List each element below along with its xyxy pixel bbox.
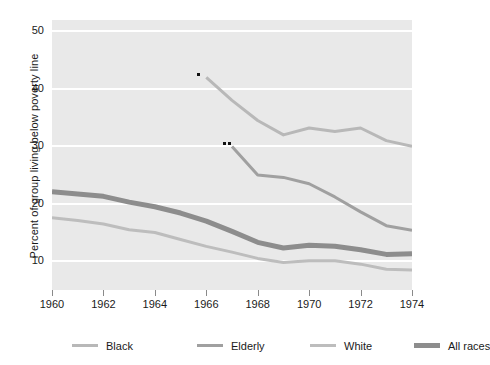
legend-swatch (72, 344, 98, 347)
series-line-elderly (232, 146, 412, 230)
footnote-marker (197, 73, 200, 76)
x-tick-mark (361, 290, 362, 296)
x-tick-mark (155, 290, 156, 296)
legend-item-white[interactable]: White (310, 336, 372, 354)
legend-item-all-races[interactable]: All races (414, 336, 490, 354)
x-tick-label: 1968 (238, 298, 278, 310)
footnote-marker (223, 142, 226, 145)
legend-swatch (414, 343, 440, 348)
legend-label: Elderly (231, 340, 265, 352)
x-tick-mark (103, 290, 104, 296)
footnote-marker (228, 142, 231, 145)
legend-swatch (197, 344, 223, 347)
legend-label: White (344, 340, 372, 352)
legend-item-black[interactable]: Black (72, 336, 133, 354)
x-axis-line (52, 290, 412, 291)
series-line-white (52, 218, 412, 270)
y-axis-title: Percent of group living below poverty li… (28, 26, 40, 286)
legend-label: All races (448, 340, 490, 352)
x-tick-label: 1966 (186, 298, 226, 310)
y-tick-label: 20 (14, 197, 44, 209)
x-tick-mark (206, 290, 207, 296)
x-tick-mark (412, 290, 413, 296)
x-tick-label: 1962 (83, 298, 123, 310)
x-tick-label: 1960 (32, 298, 72, 310)
y-tick-label: 40 (14, 82, 44, 94)
x-tick-label: 1974 (392, 298, 432, 310)
y-tick-label: 10 (14, 254, 44, 266)
plot-area (52, 20, 412, 290)
legend-swatch (310, 344, 336, 347)
legend-item-elderly[interactable]: Elderly (197, 336, 265, 354)
x-tick-label: 1970 (289, 298, 329, 310)
x-tick-mark (258, 290, 259, 296)
series-line-black (206, 77, 412, 146)
series-lines (52, 20, 412, 290)
x-tick-mark (52, 290, 53, 296)
legend-label: Black (106, 340, 133, 352)
x-tick-mark (309, 290, 310, 296)
y-tick-label: 30 (14, 139, 44, 151)
x-tick-label: 1972 (341, 298, 381, 310)
x-tick-label: 1964 (135, 298, 175, 310)
chart-legend: BlackElderlyWhiteAll races (52, 336, 422, 356)
y-tick-label: 50 (14, 24, 44, 36)
